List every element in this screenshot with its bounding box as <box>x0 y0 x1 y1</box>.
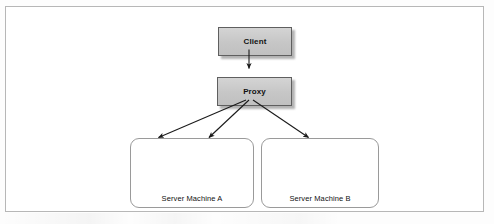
server-machine-b-label: Server Machine B <box>262 195 378 203</box>
proxy-node: Proxy <box>217 77 292 106</box>
server-machine-a-label: Server Machine A <box>131 195 253 203</box>
figure-frame: Client Proxy Op1 Service Op2 Service <box>5 6 484 212</box>
proxy-node-label: Proxy <box>243 88 266 96</box>
scan-artifact <box>0 213 494 224</box>
figure-root: Client Proxy Op1 Service Op2 Service <box>0 0 494 224</box>
server-machine-b-container: Op2 Service Server Machine B <box>261 138 379 208</box>
client-node-label: Client <box>244 38 267 46</box>
server-machine-a-container: Op1 Service Op2 Service Server Machine A <box>130 138 254 208</box>
client-node: Client <box>218 27 292 56</box>
